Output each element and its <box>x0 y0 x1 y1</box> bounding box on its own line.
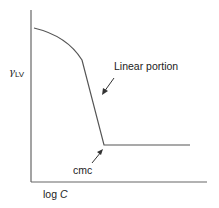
x-axis-label: log C <box>43 188 68 200</box>
y-axis-label: γLV <box>9 66 24 79</box>
linear-portion-annotation: Linear portion <box>114 60 178 72</box>
linear-arrowhead-icon <box>102 88 108 95</box>
cmc-arrowhead-icon <box>97 149 103 155</box>
chart-canvas <box>0 0 219 208</box>
cmc-annotation: cmc <box>73 164 92 176</box>
data-curve <box>34 28 190 145</box>
